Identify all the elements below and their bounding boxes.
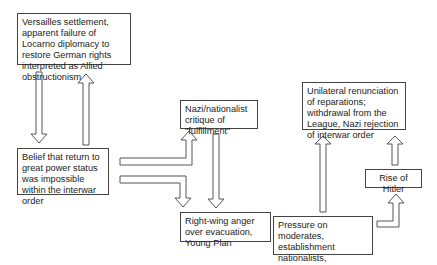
arrow-belief-to-right-wing — [120, 176, 191, 207]
arrow-pressure-to-unilateral — [315, 136, 331, 212]
arrow-pressure-to-hitler — [377, 194, 404, 227]
node-pressure: Pressure on moderates, establishment nat… — [273, 216, 373, 255]
node-unilateral: Unilateral renunciation of reparations; … — [302, 82, 406, 130]
node-hitler: Rise of Hitler — [365, 169, 422, 188]
arrow-nazi-critique-to-right-wing — [208, 134, 224, 208]
arrow-hitler-to-unilateral — [387, 136, 403, 165]
node-nazi-critique: Nazi/nationalist critique of "fulfillmen… — [180, 100, 258, 129]
node-right-wing: Right-wing anger over evacuation, Young … — [180, 212, 271, 242]
node-belief: Belief that return to great power status… — [17, 148, 109, 195]
arrow-belief-to-versailles — [78, 74, 94, 145]
node-versailles: Versailles settlement, apparent failure … — [17, 13, 131, 65]
